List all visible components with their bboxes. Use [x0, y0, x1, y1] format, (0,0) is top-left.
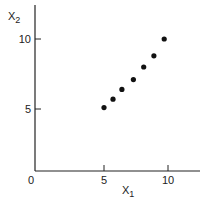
tick-label-x-0: 0 — [28, 174, 34, 186]
data-point — [101, 105, 106, 110]
x-axis-title-sub: 1 — [129, 189, 134, 199]
data-point — [141, 64, 146, 69]
y-axis-title-sub: 2 — [15, 15, 20, 25]
tick-label-x-10: 10 — [162, 174, 174, 186]
axes — [35, 5, 200, 171]
data-points — [101, 36, 166, 110]
tick-label-x-5: 5 — [101, 174, 107, 186]
data-point — [131, 77, 136, 82]
tick-labels: 0 5 10 10 5 — [19, 33, 174, 186]
data-point — [151, 53, 156, 58]
data-point — [162, 36, 167, 41]
y-axis-title: X2 — [8, 10, 20, 25]
scatter-chart: 0 5 10 10 5 X2 X1 — [0, 0, 210, 202]
tick-label-y-5: 5 — [25, 103, 31, 115]
data-point — [119, 87, 124, 92]
x-axis-title: X1 — [122, 184, 134, 199]
tick-label-y-10: 10 — [19, 33, 31, 45]
data-point — [110, 97, 115, 102]
